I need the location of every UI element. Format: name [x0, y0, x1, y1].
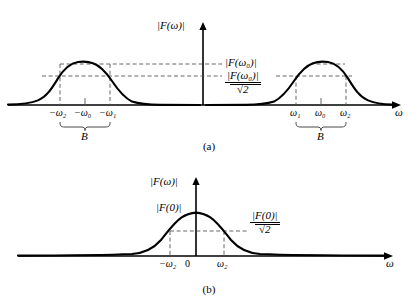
panel-a-half-power-denominator: √2: [225, 83, 261, 95]
panel-a-half-power-numerator: |F(ω₀)|: [225, 70, 261, 82]
panel-b-half-power-denominator: √2: [250, 223, 280, 235]
panel-b-y-axis-label: |F(ω)|: [150, 176, 178, 187]
panel-b-radical-vinculum: [255, 224, 280, 225]
panel-a-tick-label-omega2: ω₂: [340, 108, 351, 118]
panel-a-curve-left-lobe: [8, 62, 200, 105]
panel-a-tick-label-omega0: ω₀: [315, 108, 326, 118]
panel-a-caption: (a): [0, 140, 418, 152]
panel-b-tick-label-omega2: ω₂: [217, 259, 228, 269]
panel-b-caption: (b): [0, 283, 418, 295]
panel-b-graphics: [18, 177, 393, 260]
panel-b-tick-label-neg-omega2: −ω₂: [159, 259, 176, 269]
panel-a-tick-label-neg-omega2: −ω₂: [49, 108, 66, 118]
panel-b-tick-label-zero: 0: [185, 259, 190, 269]
panel-a-tick-label-neg-omega1: −ω₁: [99, 108, 116, 118]
panel-a-tick-label-neg-omega0: −ω₀: [74, 108, 91, 118]
panel-a-peak-level-label: |F(ω₀)|: [225, 57, 257, 68]
panel-b-half-power-label: |F(0)| √2: [250, 210, 280, 235]
panel-a-tick-label-omega1: ω₁: [290, 108, 301, 118]
panel-b-peak-level-label: |F(0)|: [156, 202, 182, 213]
figure-spectrum-bandpass-lowpass: |F(ω)| |F(ω₀)| |F(ω₀)| √2 ω −ω₂ −ω₀ −ω₁ …: [0, 0, 418, 303]
panel-b-x-axis-label: ω: [386, 258, 394, 269]
panel-a-x-axis-label: ω: [395, 107, 403, 118]
panel-a-y-axis-arrowhead: [199, 22, 206, 30]
panel-a-radical-vinculum: [230, 84, 261, 85]
panel-b-curve-lowpass-lobe: [18, 213, 384, 256]
panel-b-y-axis-arrowhead: [192, 177, 199, 185]
panel-a-half-power-label: |F(ω₀)| √2: [225, 70, 261, 95]
panel-a-y-axis-label: |F(ω)|: [157, 20, 185, 31]
panel-b-half-power-numerator: |F(0)|: [250, 210, 280, 222]
